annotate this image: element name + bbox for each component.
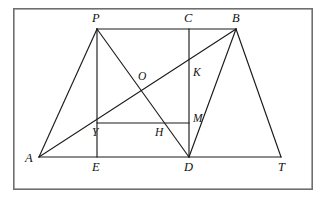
point-label-M: M	[192, 112, 204, 124]
point-label-K: K	[192, 66, 202, 78]
point-label-H: H	[154, 126, 164, 138]
point-label-P: P	[91, 11, 100, 25]
point-label-C: C	[184, 11, 193, 25]
figure-border-frame	[14, 9, 312, 189]
point-label-Y: Y	[92, 126, 100, 138]
segment-B-D	[189, 29, 236, 157]
geometry-figure-svg: PCBOKMHYAEDT	[0, 0, 327, 203]
segment-B-T	[236, 29, 281, 157]
segment-P-D	[97, 29, 189, 157]
point-label-T: T	[278, 160, 286, 174]
point-label-B: B	[232, 11, 240, 25]
geometry-figure-container: PCBOKMHYAEDT	[0, 0, 327, 203]
point-label-D: D	[183, 160, 193, 174]
point-label-O: O	[138, 70, 147, 82]
vertex-labels-group: PCBOKMHYAEDT	[24, 11, 286, 174]
point-label-A: A	[24, 151, 33, 165]
point-label-E: E	[91, 160, 100, 174]
